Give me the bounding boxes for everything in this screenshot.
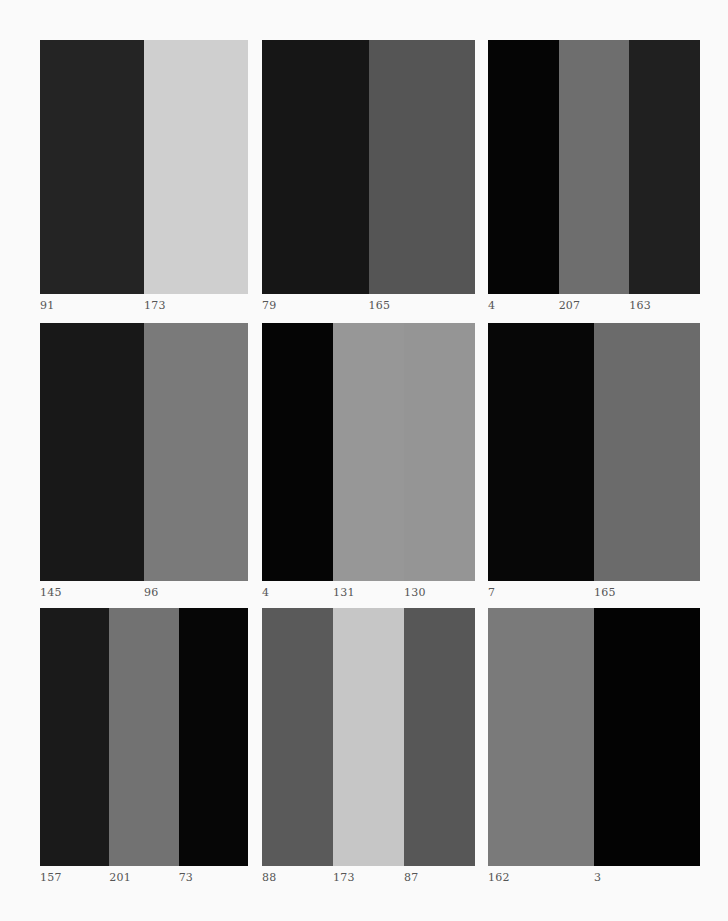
stripe-value-label: 4 — [262, 586, 269, 599]
stripe-value-label: 130 — [404, 586, 426, 599]
color-stripe — [144, 40, 248, 294]
color-panel — [40, 608, 248, 866]
stripe-value-label: 162 — [488, 871, 510, 884]
color-stripe — [559, 40, 630, 294]
color-stripe — [144, 323, 248, 581]
color-stripe — [594, 323, 700, 581]
stripe-value-label: 145 — [40, 586, 62, 599]
stripe-value-label: 79 — [262, 299, 276, 312]
stripe-value-label: 173 — [333, 871, 355, 884]
color-panel — [488, 608, 700, 866]
color-stripe — [488, 40, 559, 294]
color-panel — [40, 40, 248, 294]
color-stripe — [262, 40, 369, 294]
color-stripe — [109, 608, 178, 866]
stripe-value-label: 4 — [488, 299, 495, 312]
color-stripe — [333, 323, 404, 581]
color-stripe — [488, 323, 594, 581]
color-panel — [262, 608, 475, 866]
stripe-value-label: 3 — [594, 871, 601, 884]
stripe-value-label: 131 — [333, 586, 355, 599]
color-stripe — [262, 323, 333, 581]
color-stripe — [629, 40, 700, 294]
color-stripe — [179, 608, 248, 866]
stripe-value-label: 165 — [369, 299, 391, 312]
stripe-value-label: 7 — [488, 586, 495, 599]
color-stripe — [40, 40, 144, 294]
color-panel — [40, 323, 248, 581]
color-panel — [488, 323, 700, 581]
color-panel — [262, 323, 475, 581]
color-stripe — [488, 608, 594, 866]
stripe-value-label: 165 — [594, 586, 616, 599]
stripe-value-label: 201 — [109, 871, 131, 884]
color-stripe — [333, 608, 404, 866]
color-stripe — [594, 608, 700, 866]
color-stripe — [369, 40, 476, 294]
stripe-value-label: 87 — [404, 871, 418, 884]
stripe-value-label: 88 — [262, 871, 276, 884]
color-stripe — [40, 608, 109, 866]
stripe-value-label: 91 — [40, 299, 54, 312]
stripe-value-label: 73 — [179, 871, 193, 884]
color-stripe — [40, 323, 144, 581]
stripe-value-label: 157 — [40, 871, 62, 884]
stripe-value-label: 173 — [144, 299, 166, 312]
color-stripe — [262, 608, 333, 866]
color-stripe — [404, 608, 475, 866]
stripe-value-label: 96 — [144, 586, 158, 599]
color-stripe — [404, 323, 475, 581]
color-panel — [262, 40, 475, 294]
stripe-value-label: 163 — [629, 299, 651, 312]
stripe-value-label: 207 — [559, 299, 581, 312]
color-panel — [488, 40, 700, 294]
